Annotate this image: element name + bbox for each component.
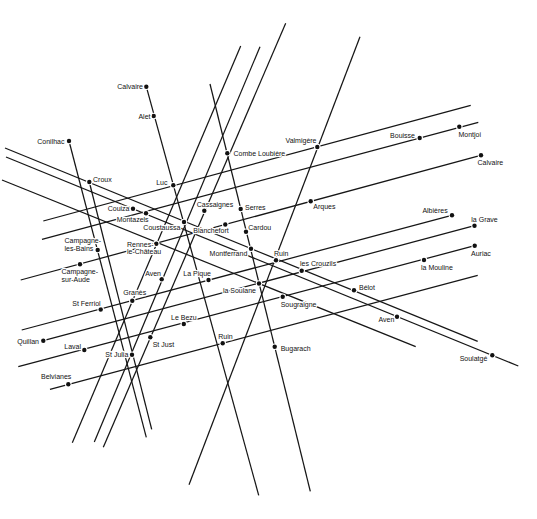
croux-dot-icon xyxy=(87,180,91,184)
place-label-aven: Aven xyxy=(378,316,394,323)
coustaussa-dot-icon xyxy=(182,220,186,224)
les-crouzils-dot-icon xyxy=(300,269,304,273)
st-julia-dot-icon xyxy=(130,353,134,357)
calvaire-dot-icon xyxy=(479,153,483,157)
place-label-la-soulane: la Soulane xyxy=(223,287,256,294)
ley-line-map: CalvaireAletConilhacCombe LoubièreValmig… xyxy=(0,0,537,519)
campagne-les-bains-dot-icon xyxy=(96,248,100,252)
albieres-dot-icon xyxy=(450,213,454,217)
place-label-rennes-le-chateau: Rennes- xyxy=(127,241,154,248)
sougraigne-dot-icon xyxy=(281,295,285,299)
conilhac-dot-icon xyxy=(67,139,71,143)
place-label-croux: Croux xyxy=(93,176,112,183)
place-label-albieres: Albières xyxy=(422,207,448,214)
soulatge-dot-icon xyxy=(490,353,494,357)
place-label-belvianes: Belvianes xyxy=(41,373,72,380)
place-label-st-just: St Just xyxy=(153,341,174,348)
place-label-combe-loubiere: Combe Loubière xyxy=(234,150,286,157)
montferrand-dot-icon xyxy=(249,247,253,251)
calvaire-dot-icon xyxy=(144,85,148,89)
valmigere-dot-icon xyxy=(315,145,319,149)
place-label-arques: Arques xyxy=(313,203,336,211)
place-label-soulatge: Soulatgé xyxy=(460,355,488,363)
place-label-le-bezu: Le Bezu xyxy=(171,314,197,321)
la-grave-dot-icon xyxy=(472,224,476,228)
place-label-calvaire: Calvaire xyxy=(478,159,504,166)
alet-dot-icon xyxy=(152,114,156,118)
aven-dot-icon xyxy=(395,315,399,319)
place-label-la-grave: la Grave xyxy=(471,216,498,223)
luc-dot-icon xyxy=(171,183,175,187)
blanchefort-dot-icon xyxy=(223,222,227,226)
arques-dot-icon xyxy=(309,199,313,203)
place-label-ruin: Ruin xyxy=(274,250,289,257)
belvianes-dot-icon xyxy=(66,382,70,386)
place-label-montazels: Montazels xyxy=(117,216,149,223)
st-just-dot-icon xyxy=(148,335,152,339)
bouisse-dot-icon xyxy=(418,136,422,140)
aven-dot-icon xyxy=(160,277,164,281)
place-label-aven: Aven xyxy=(145,270,161,277)
laval-dot-icon xyxy=(82,348,86,352)
place-label-cassaignes: Cassaignes xyxy=(197,201,234,209)
auriac-dot-icon xyxy=(473,244,477,248)
place-label-coustaussa: Coustaussa xyxy=(143,224,180,231)
place-label-conilhac: Conilhac xyxy=(37,138,65,145)
place-label-st-ferriol: St Ferriol xyxy=(72,300,101,307)
rennes-le-chateau-dot-icon xyxy=(154,242,158,246)
bugarach-dot-icon xyxy=(273,345,277,349)
place-label-alet: Alet xyxy=(138,113,150,120)
ruin-dot-icon xyxy=(221,341,225,345)
la-pique-dot-icon xyxy=(206,278,210,282)
le-bezu-dot-icon xyxy=(182,322,186,326)
map-paper xyxy=(0,0,537,519)
place-label-bugarach: Bugarach xyxy=(281,345,311,353)
quillan-dot-icon xyxy=(41,339,45,343)
place-label-valmigere: Valmigère xyxy=(286,137,317,145)
place-label-montjoi: Montjoi xyxy=(459,131,482,139)
place-label-luc: Luc xyxy=(156,179,168,186)
couiza-dot-icon xyxy=(131,207,135,211)
place-label-belot: Bélot xyxy=(359,284,375,291)
place-label-couiza: Couiza xyxy=(108,205,130,212)
place-label-blanchefort: Blanchefort xyxy=(193,227,228,234)
combe-loubiere-dot-icon xyxy=(225,151,229,155)
place-label-campagne-les-bains: les-Bains xyxy=(65,245,94,252)
serres-dot-icon xyxy=(239,207,243,211)
place-label-cardou: Cardou xyxy=(248,224,271,231)
montjoi-dot-icon xyxy=(457,125,461,129)
la-mouline-dot-icon xyxy=(422,258,426,262)
place-label-auriac: Auriac xyxy=(471,250,491,257)
place-label-laval: Laval xyxy=(64,343,81,350)
campagne-sur-aude-dot-icon xyxy=(78,262,82,266)
place-label-les-crouzils: les Crouzils xyxy=(300,260,337,267)
la-soulane-dot-icon xyxy=(257,281,261,285)
place-label-ruin: Ruin xyxy=(218,333,233,340)
st-ferriol-dot-icon xyxy=(99,307,103,311)
place-label-calvaire: Calvaire xyxy=(117,83,143,90)
place-label-campagne-sur-aude: sur-Aude xyxy=(62,276,91,283)
place-label-la-pique: La Pique xyxy=(183,270,211,278)
place-label-st-julia: St Julia xyxy=(105,351,128,358)
place-label-granes: Granès xyxy=(123,289,146,296)
place-label-la-mouline: la Mouline xyxy=(421,264,453,271)
granes-dot-icon xyxy=(130,299,134,303)
place-label-sougraigne: Sougraigne xyxy=(281,301,317,309)
place-label-serres: Serres xyxy=(245,204,266,211)
belot-dot-icon xyxy=(352,288,356,292)
ruin-dot-icon xyxy=(274,258,278,262)
place-label-rennes-le-chateau: le-Château xyxy=(127,248,161,255)
place-label-bouisse: Bouisse xyxy=(390,132,415,139)
place-label-quillan: Quillan xyxy=(17,338,39,346)
cassaignes-dot-icon xyxy=(202,209,206,213)
place-label-montferrand: Montferrand xyxy=(210,250,248,257)
